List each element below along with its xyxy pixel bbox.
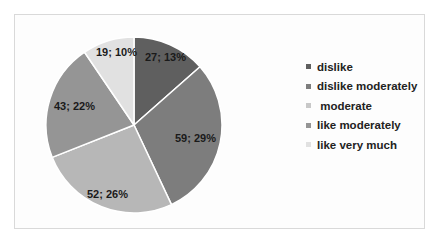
legend-label: like very much — [317, 139, 397, 151]
legend-swatch — [306, 142, 311, 147]
legend-item-dislike-moderately: dislike moderately — [306, 77, 417, 97]
legend-swatch — [306, 84, 311, 89]
legend-swatch — [306, 103, 311, 108]
pie-chart — [44, 35, 224, 215]
legend-label: dislike moderately — [317, 80, 417, 92]
legend-swatch — [306, 123, 311, 128]
data-label-like-very-much: 19; 10% — [96, 46, 137, 58]
legend-swatch — [306, 64, 311, 69]
legend-label: dislike — [317, 61, 353, 73]
data-label-moderate: 52; 26% — [87, 188, 128, 200]
data-label-dislike: 27; 13% — [145, 51, 186, 63]
legend-label: moderate — [317, 100, 372, 112]
legend-item-like-very-much: like very much — [306, 135, 417, 155]
legend: dislike dislike moderately moderate like… — [306, 57, 417, 155]
legend-item-moderate: moderate — [306, 96, 417, 116]
legend-label: like moderately — [317, 119, 401, 131]
data-label-like-moderately: 43; 22% — [54, 100, 95, 112]
legend-item-dislike: dislike — [306, 57, 417, 77]
legend-item-like-moderately: like moderately — [306, 116, 417, 136]
data-label-dislike-moderately: 59; 29% — [175, 132, 216, 144]
